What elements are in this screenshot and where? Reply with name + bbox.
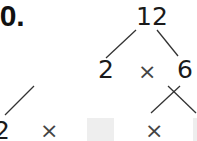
level1-left-factor: 2 bbox=[98, 57, 114, 82]
problem-number: 10. bbox=[0, 1, 25, 31]
answer-box-1[interactable] bbox=[87, 118, 114, 141]
level2-left-factor: 2 bbox=[0, 118, 10, 141]
level2-times-1: × bbox=[40, 120, 58, 141]
level2-times-2: × bbox=[145, 120, 163, 141]
branch-12-to-2 bbox=[106, 30, 136, 58]
branch-6-to-box1 bbox=[151, 86, 180, 113]
level1-right-factor: 6 bbox=[177, 57, 193, 82]
root-value: 12 bbox=[136, 4, 168, 29]
level1-times: × bbox=[138, 61, 156, 83]
answer-box-2[interactable] bbox=[193, 118, 197, 141]
branch-6-to-box2-visible bbox=[168, 86, 196, 113]
branch-2-to-2 bbox=[5, 86, 34, 115]
branch-12-to-6 bbox=[157, 30, 178, 56]
